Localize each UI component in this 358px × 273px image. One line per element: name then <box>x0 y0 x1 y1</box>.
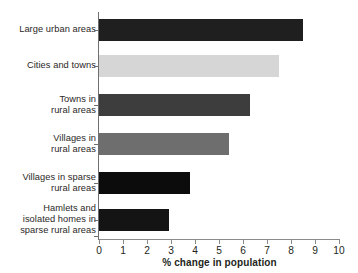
x-axis-tick <box>147 239 148 244</box>
x-axis-tick <box>267 239 268 244</box>
bar-large-urban-areas <box>99 19 303 41</box>
bar-chart: Large urban areas Cities and towns Towns… <box>0 0 358 273</box>
x-axis-tick <box>219 239 220 244</box>
x-tick-label: 8 <box>279 245 303 257</box>
bar-towns-in-rural-areas <box>99 94 250 116</box>
x-tick-label: 3 <box>159 245 183 257</box>
category-label: Villages in rural areas <box>0 133 96 155</box>
x-axis-tick <box>123 239 124 244</box>
x-axis-tick <box>99 239 100 244</box>
category-label: Towns in rural areas <box>0 94 96 116</box>
category-label: Hamlets and isolated homes in sparse rur… <box>0 203 96 237</box>
x-tick-label: 4 <box>183 245 207 257</box>
x-tick-label: 0 <box>87 245 111 257</box>
category-axis-labels: Large urban areas Cities and towns Towns… <box>0 0 96 240</box>
bar-cities-and-towns <box>99 55 279 77</box>
category-label: Large urban areas <box>0 24 96 35</box>
x-axis-tick <box>195 239 196 244</box>
x-tick-label: 9 <box>303 245 327 257</box>
x-axis-tick <box>339 239 340 244</box>
plot-area <box>99 12 339 240</box>
category-label: Villages in sparse rural areas <box>0 172 96 194</box>
x-tick-label: 10 <box>327 245 351 257</box>
x-axis-tick <box>171 239 172 244</box>
x-axis-tick <box>315 239 316 244</box>
bar-villages-in-sparse-rural-areas <box>99 172 190 194</box>
x-tick-label: 1 <box>111 245 135 257</box>
x-tick-label: 6 <box>231 245 255 257</box>
category-label: Cities and towns <box>0 60 96 71</box>
x-axis-tick <box>291 239 292 244</box>
x-tick-label: 7 <box>255 245 279 257</box>
x-tick-label: 2 <box>135 245 159 257</box>
x-tick-label: 5 <box>207 245 231 257</box>
x-axis-title: % change in population <box>99 257 340 268</box>
bar-villages-in-rural-areas <box>99 133 229 155</box>
bar-hamlets-and-isolated-homes <box>99 209 169 231</box>
x-axis-tick <box>243 239 244 244</box>
